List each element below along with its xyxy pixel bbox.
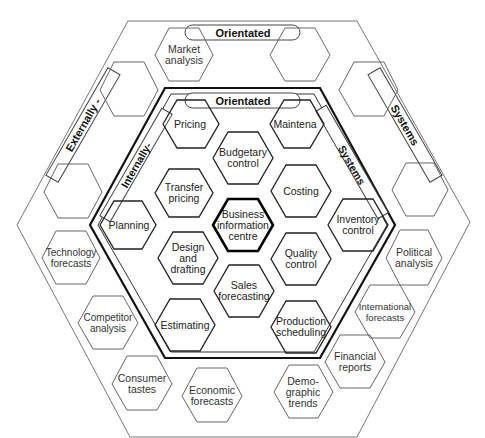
- hex-maintenance: Maintena: [273, 119, 316, 130]
- hex-inventory-control: Inventory control: [333, 214, 383, 236]
- inner-top-band-label: Orientated: [215, 95, 270, 107]
- hex-quality-control: Quality control: [278, 248, 324, 270]
- outer-top-band-label: Orientated: [215, 27, 270, 39]
- hex-market-analysis: Market analysis: [161, 44, 207, 66]
- hex-transfer-pricing: Transfer pricing: [161, 182, 207, 204]
- hex-consumer-tastes: Consumer tastes: [114, 373, 170, 395]
- hex-international-forecasts: International forecasts: [356, 301, 414, 323]
- hex-pricing: Pricing: [174, 119, 206, 130]
- hex-costing: Costing: [283, 186, 319, 197]
- hex-design-drafting: Design and drafting: [165, 242, 211, 275]
- hex-planning: Planning: [109, 220, 150, 231]
- center-label: Business information centre: [215, 209, 271, 242]
- hex-political-analysis: Political analysis: [389, 247, 439, 269]
- hex-demographic-trends: Demo- graphic trends: [283, 376, 323, 409]
- hex-estimating: Estimating: [160, 320, 209, 331]
- hex-economic-forecasts: Economic forecasts: [184, 385, 240, 407]
- hex-sales-forecasting: Sales forecasting: [218, 280, 270, 302]
- hex-technology-forecasts: Technology forecasts: [43, 247, 99, 269]
- hex-competitor-analysis: Competitor analysis: [80, 312, 136, 334]
- hex-production-scheduling: Production scheduling: [274, 316, 328, 338]
- hex-financial-reports: Financial reports: [330, 351, 380, 373]
- hex-budgetary-control: Budgetary control: [217, 147, 269, 169]
